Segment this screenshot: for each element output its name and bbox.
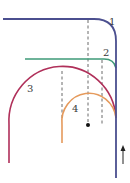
label-1: 1 — [109, 16, 115, 27]
dashed-guides — [62, 20, 102, 125]
label-2: 2 — [103, 47, 109, 58]
path-4 — [62, 93, 116, 143]
path-1 — [3, 19, 116, 178]
diagram-canvas: 1 2 3 4 — [0, 0, 130, 183]
center-dot — [86, 123, 90, 127]
diagram-svg: 1 2 3 4 — [0, 0, 130, 183]
label-3: 3 — [27, 83, 33, 94]
label-4: 4 — [72, 103, 78, 114]
arrow-up-icon — [121, 145, 126, 164]
